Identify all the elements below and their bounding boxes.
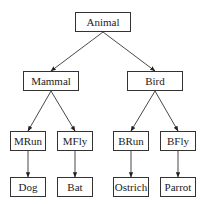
node-bird: Bird [127,71,183,91]
node-label: Ostrich [115,181,147,193]
node-label: Bird [145,75,165,87]
node-bat: Bat [57,177,93,197]
edge-mammal-mfly [51,91,75,131]
edge-bird-brun [131,91,155,131]
node-mammal: Mammal [23,71,79,91]
node-parrot: Parrot [160,177,196,197]
node-dog: Dog [10,177,46,197]
edge-bird-bfly [155,91,178,131]
node-label: Bat [67,181,82,193]
node-label: MRun [14,135,42,147]
node-animal: Animal [75,12,131,32]
node-label: Dog [19,181,38,193]
edge-animal-bird [103,32,155,71]
tree-diagram: Animal Mammal Bird MRun MFly BRun BFly D… [0,0,208,204]
node-label: BFly [167,135,189,147]
edge-animal-mammal [51,32,103,71]
node-label: MFly [63,135,87,147]
node-label: Animal [87,16,120,28]
node-brun: BRun [113,131,149,151]
edge-mammal-mrun [28,91,51,131]
node-mfly: MFly [57,131,93,151]
node-label: BRun [118,135,144,147]
node-label: Mammal [31,75,71,87]
node-label: Parrot [165,181,192,193]
node-bfly: BFly [160,131,196,151]
node-ostrich: Ostrich [113,177,149,197]
node-mrun: MRun [10,131,46,151]
